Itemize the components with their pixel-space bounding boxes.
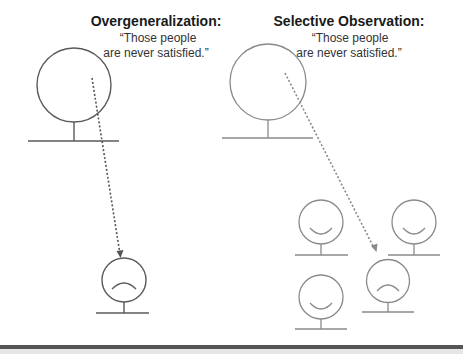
left-sad-person-icon bbox=[96, 258, 149, 313]
frown-icon bbox=[377, 285, 399, 291]
right-title: Selective Observation: bbox=[274, 13, 425, 29]
right-happy-person-icon bbox=[388, 200, 440, 255]
left-quote-line2: are never satisfied.” bbox=[103, 46, 208, 60]
footer-rule bbox=[0, 345, 463, 354]
observer-head-icon bbox=[230, 44, 306, 120]
left-title: Overgeneralization: bbox=[91, 13, 222, 29]
right-happy-person-icon bbox=[295, 200, 348, 255]
left-observer-figure-icon bbox=[28, 48, 119, 141]
smile-icon bbox=[310, 303, 332, 309]
right-quote-line2: are never satisfied.” bbox=[296, 46, 401, 60]
frown-icon bbox=[112, 283, 136, 289]
observer-head-icon bbox=[37, 48, 111, 122]
right-panel: Selective Observation: “Those people are… bbox=[222, 13, 440, 329]
smile-icon bbox=[403, 228, 425, 234]
sad-head-icon bbox=[102, 258, 146, 302]
diagram-canvas: Overgeneralization: “Those people are ne… bbox=[0, 0, 463, 354]
right-quote-line1: “Those people bbox=[312, 31, 389, 45]
left-quote-line1: “Those people bbox=[120, 31, 197, 45]
left-dotted-arrow-icon bbox=[92, 78, 124, 258]
right-happy-person-icon bbox=[295, 275, 347, 329]
right-sad-person-icon bbox=[362, 260, 414, 313]
smile-icon bbox=[310, 228, 332, 234]
left-panel: Overgeneralization: “Those people are ne… bbox=[28, 13, 221, 313]
